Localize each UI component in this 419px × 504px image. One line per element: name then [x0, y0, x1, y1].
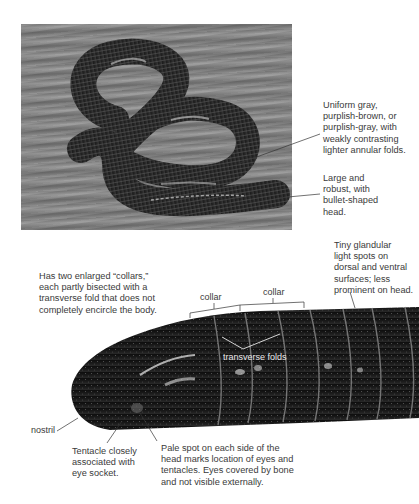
- collar-label-2: collar: [263, 287, 285, 297]
- transverse-folds-label: transverse folds: [223, 352, 287, 362]
- head-shape-caption: Large and robust, with bullet-shaped hea…: [323, 173, 378, 218]
- tentacle-caption: Tentacle closely associated with eye soc…: [72, 446, 137, 480]
- coiled-caecilian-photo: [21, 24, 292, 230]
- pale-spot-caption: Pale spot on each side of the head marks…: [161, 443, 294, 488]
- nostril-label: nostril: [31, 425, 55, 435]
- glandular-spots-caption: Tiny glandular light spots on dorsal and…: [334, 240, 413, 296]
- collars-caption: Has two enlarged “collars,” each partly …: [39, 271, 157, 316]
- caecilian-body-shape: [21, 24, 292, 230]
- coloration-caption: Uniform gray, purplish-brown, or purplis…: [323, 100, 406, 156]
- collar-label-1: collar: [200, 292, 222, 302]
